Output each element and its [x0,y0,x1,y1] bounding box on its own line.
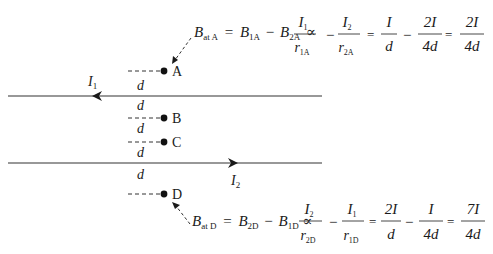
svg-text:I: I [386,14,393,30]
svg-text:−: − [326,27,334,43]
svg-text:=: = [367,27,374,42]
svg-text:r2A: r2A [338,40,353,57]
distance-wire2-d: d [137,167,145,182]
point-c-label: C [172,135,181,150]
distance-b-c: d [137,121,145,136]
svg-text:4d: 4d [423,38,439,54]
svg-text:=: = [445,27,452,42]
svg-text:2I: 2I [466,14,480,30]
svg-text:−: − [329,214,337,230]
svg-text:=: = [369,214,376,229]
svg-text:−: − [403,27,411,43]
current-label-2: I2 [230,173,240,190]
pointer-d-line [176,206,190,224]
current-label-1: I1 [87,74,97,91]
distance-wire1-b: d [137,98,145,113]
point-a-label: A [172,64,183,79]
svg-text:r1D: r1D [343,228,358,245]
svg-text:4d: 4d [424,226,440,242]
svg-text:4d: 4d [465,38,481,54]
svg-text:I1: I1 [347,201,357,219]
svg-text:Bat D = B2D: Bat D = B2D − B1D ∝ [192,213,313,232]
point-c-dot [161,139,168,146]
distance-c-wire2: d [137,145,145,160]
svg-text:d: d [385,38,393,54]
pointer-d-arrow-icon [172,202,180,209]
pointer-a-line [175,38,191,60]
svg-text:2I: 2I [424,14,438,30]
equation-d: Bat D = B2D − B1D ∝ I2 r2D − I1 r1D = 2I… [192,201,485,245]
svg-text:I1: I1 [298,14,308,32]
point-d-dot [161,191,168,198]
svg-text:d: d [387,226,395,242]
point-b-dot [161,115,168,122]
svg-text:I2: I2 [342,14,352,32]
svg-text:I: I [428,201,435,217]
point-a-dot [161,68,168,75]
svg-text:I2: I2 [304,201,314,219]
svg-text:4d: 4d [466,226,482,242]
equation-a: Bat A = B1A − B2A ∝ I1 r1A − I2 r2A = I … [194,14,484,57]
point-d-label: D [172,187,182,202]
distance-a-wire1: d [137,78,145,93]
svg-text:−: − [405,214,413,230]
svg-text:r2D: r2D [300,228,315,245]
svg-text:7I: 7I [467,201,481,217]
svg-text:=: = [447,214,454,229]
magnetic-field-diagram: I1 I2 A d d B d C d d D Bat A = B1A − B2… [0,0,493,254]
point-b-label: B [172,111,181,126]
svg-text:2I: 2I [385,201,399,217]
